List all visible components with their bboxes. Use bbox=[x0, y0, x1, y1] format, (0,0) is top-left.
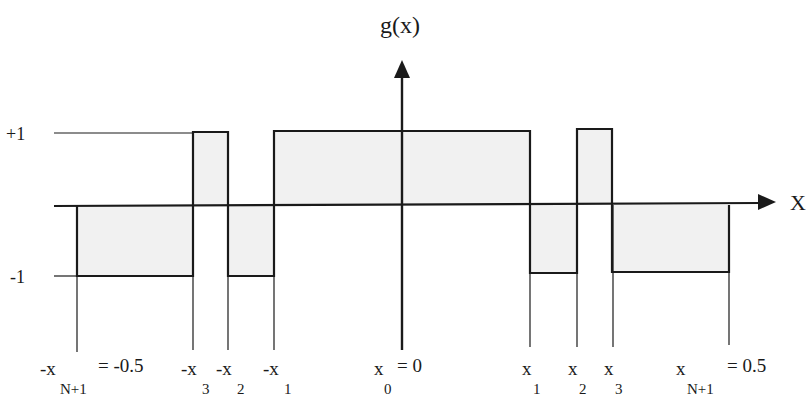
region-neg-1-right bbox=[612, 205, 728, 273]
x-axis-arrow-icon bbox=[758, 194, 776, 210]
tick-label-x1-sub: 1 bbox=[533, 381, 541, 397]
tick-label-neg-x1-sub: 1 bbox=[284, 381, 292, 397]
tick-label-xN1: x bbox=[676, 358, 686, 379]
tick-label-x2: x bbox=[568, 358, 578, 379]
tick-label-x0-value: = 0 bbox=[397, 355, 422, 376]
minus-one-label: -1 bbox=[10, 267, 25, 287]
tick-label-x1: x bbox=[522, 358, 532, 379]
tick-label-x2-sub: 2 bbox=[579, 381, 587, 397]
plus-one-label: +1 bbox=[6, 124, 25, 144]
region-pos-1-neg-x3 bbox=[193, 132, 228, 205]
y-axis-arrow-icon bbox=[394, 60, 410, 78]
tick-label-x0: x bbox=[374, 358, 384, 379]
tick-label-neg-x2: -x bbox=[216, 358, 232, 379]
tick-label-neg-x3: -x bbox=[181, 358, 197, 379]
tick-label-neg-x3-sub: 3 bbox=[202, 381, 210, 397]
region-pos-1-x2 bbox=[576, 130, 612, 205]
tick-label-neg-xN1-value: = -0.5 bbox=[98, 355, 144, 376]
y-axis-label: g(x) bbox=[380, 12, 420, 38]
tick-label-xN1-value: = 0.5 bbox=[727, 355, 766, 376]
region-neg-1-neg-x2 bbox=[228, 205, 274, 276]
tick-label-x0-sub: 0 bbox=[384, 381, 392, 397]
region-neg-1-x1 bbox=[530, 205, 576, 273]
tick-label-x3-sub: 3 bbox=[615, 381, 623, 397]
tick-label-neg-x1: -x bbox=[263, 358, 279, 379]
square-wave-diagram: g(x) X +1 -1 -x N+1 = -0.5 -x 3 -x 2 -x … bbox=[0, 0, 811, 399]
x-axis-label: X bbox=[790, 190, 806, 215]
tick-labels: -x N+1 = -0.5 -x 3 -x 2 -x 1 x 0 = 0 x 1… bbox=[40, 355, 766, 397]
tick-label-x3: x bbox=[604, 358, 614, 379]
tick-label-neg-xN1: -x bbox=[40, 358, 56, 379]
region-neg-1-left bbox=[77, 205, 193, 276]
tick-label-xN1-sub: N+1 bbox=[687, 381, 714, 397]
tick-label-neg-xN1-sub: N+1 bbox=[60, 381, 87, 397]
tick-label-neg-x2-sub: 2 bbox=[237, 381, 245, 397]
